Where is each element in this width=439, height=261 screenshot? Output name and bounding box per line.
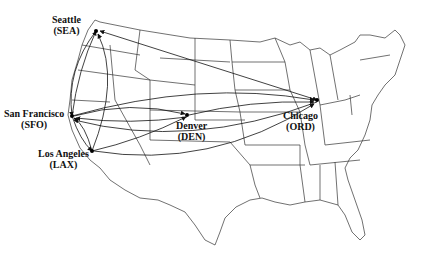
state-outlines [68,20,405,245]
route-sfo-sea [72,31,96,116]
route-sfo-den [74,107,185,116]
route-sea-sfo [71,31,96,116]
node-ord [315,98,319,102]
route-sfo-ord [72,93,314,116]
route-sfo-lax [72,116,92,151]
route-lax-sea [92,34,108,151]
node-sea [94,29,98,33]
city-name: Chicago [283,110,318,121]
label-seattle: Seattle (SEA) [52,14,81,36]
route-sea-ord [100,31,317,100]
airport-code: (ORD) [283,121,318,132]
route-lax-sfo [74,118,92,151]
city-name: Denver [176,120,207,131]
label-denver: Denver (DEN) [176,120,207,142]
airport-code: (DEN) [176,131,207,142]
city-name: Los Angeles [38,148,89,159]
route-den-sfo [76,117,187,121]
airport-code: (SFO) [4,119,64,130]
city-name: San Francisco [4,108,64,119]
label-san-francisco: San Francisco (SFO) [4,108,64,130]
label-chicago: Chicago (ORD) [283,110,318,132]
airport-code: (LAX) [38,159,89,170]
label-los-angeles: Los Angeles (LAX) [38,148,89,170]
us-map [0,0,439,261]
node-sfo [70,114,74,118]
route-lax-den [92,117,186,151]
city-name: Seattle [52,14,81,25]
node-lax [90,149,94,153]
node-den [185,113,189,117]
airport-code: (SEA) [52,25,81,36]
